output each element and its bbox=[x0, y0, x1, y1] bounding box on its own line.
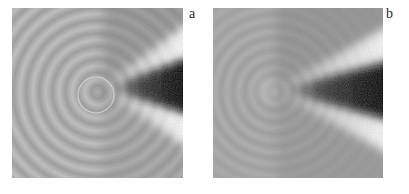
panel-b-image bbox=[213, 8, 383, 178]
film-grain-b bbox=[213, 8, 383, 178]
panel-b bbox=[213, 8, 383, 178]
panel-a-label: a bbox=[189, 7, 195, 21]
panel-b-label: b bbox=[386, 7, 393, 21]
panel-a-image bbox=[12, 8, 183, 178]
film-grain-a bbox=[12, 8, 183, 178]
figure-canvas: a b bbox=[0, 0, 409, 194]
panel-a bbox=[12, 8, 183, 178]
